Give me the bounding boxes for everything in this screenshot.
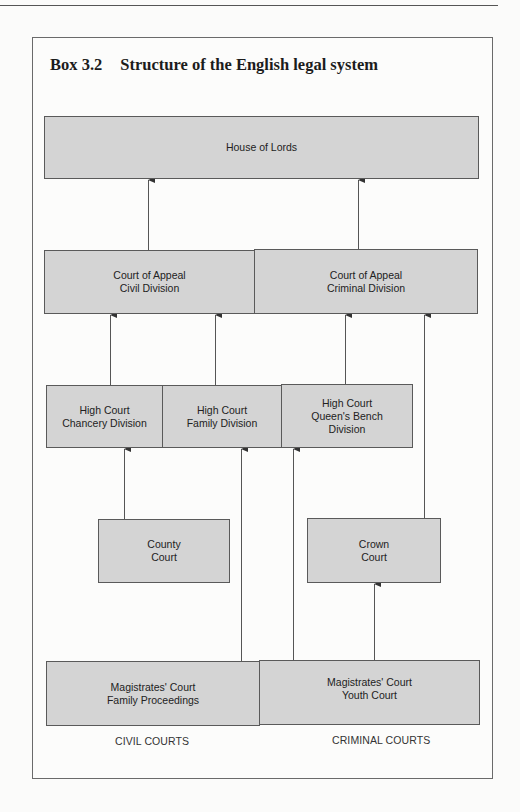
node-label-line2: Civil Division xyxy=(113,282,185,295)
node-label-line2: Criminal Division xyxy=(327,282,405,295)
node-label-line2: Court xyxy=(359,551,389,564)
label-criminal-courts: CRIMINAL COURTS xyxy=(332,734,430,746)
node-label-line2: Family Proceedings xyxy=(107,694,199,707)
node-label-line2: Youth Court xyxy=(327,689,412,702)
node-magistrates-family: Magistrates' Court Family Proceedings xyxy=(46,661,260,726)
node-hc-chancery: High Court Chancery Division xyxy=(46,385,163,448)
node-label-line1: Crown xyxy=(359,538,389,551)
node-label-line1: Court of Appeal xyxy=(327,269,405,282)
node-magistrates-youth: Magistrates' Court Youth Court xyxy=(259,660,480,725)
node-crown-court: Crown Court xyxy=(307,518,441,583)
node-label-line1: Court of Appeal xyxy=(113,269,185,282)
node-label-line1: High Court xyxy=(187,404,258,417)
node-label-line3: Division xyxy=(311,423,382,436)
node-label: House of Lords xyxy=(226,141,297,154)
node-label-line2: Queen's Bench xyxy=(311,410,382,423)
node-label-line2: Court xyxy=(147,551,180,564)
node-county-court: County Court xyxy=(98,519,230,583)
node-coa-civil: Court of Appeal Civil Division xyxy=(44,250,255,314)
node-hc-family: High Court Family Division xyxy=(162,385,282,448)
node-label-line2: Family Division xyxy=(187,417,258,430)
node-label-line1: Magistrates' Court xyxy=(107,681,199,694)
node-label-line1: High Court xyxy=(311,397,382,410)
node-hc-queens-bench: High Court Queen's Bench Division xyxy=(281,384,413,448)
label-civil-courts: CIVIL COURTS xyxy=(115,735,189,747)
node-label-line1: Magistrates' Court xyxy=(327,676,412,689)
node-label-line1: High Court xyxy=(62,404,147,417)
node-label-line1: County xyxy=(147,538,180,551)
node-coa-criminal: Court of Appeal Criminal Division xyxy=(254,249,478,314)
node-house-of-lords: House of Lords xyxy=(44,116,479,179)
node-label-line2: Chancery Division xyxy=(62,417,147,430)
